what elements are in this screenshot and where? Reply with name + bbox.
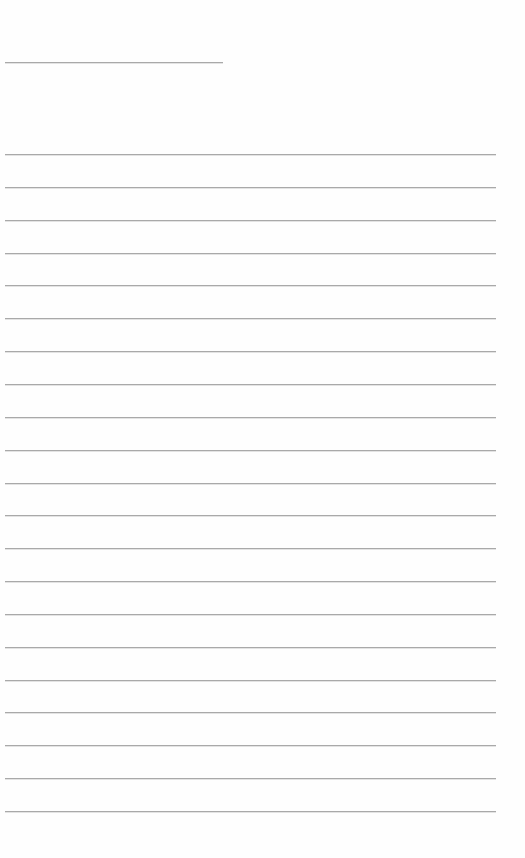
ruled-line [5,712,496,713]
ruled-line [5,811,496,812]
ruled-line [5,154,496,155]
ruled-line [5,417,496,418]
ruled-line [5,548,496,549]
ruled-line [5,253,496,254]
ruled-line [5,581,496,582]
ruled-line [5,483,496,484]
ruled-line [5,778,496,779]
ruled-line [5,285,496,286]
ruled-line [5,220,496,221]
ruled-line [5,318,496,319]
ruled-line [5,647,496,648]
ruled-line [5,450,496,451]
ruled-line [5,745,496,746]
ruled-line [5,187,496,188]
ruled-line [5,384,496,385]
lined-page [0,0,525,858]
ruled-line [5,515,496,516]
ruled-line [5,351,496,352]
ruled-line [5,614,496,615]
title-line [5,62,223,63]
ruled-line [5,680,496,681]
